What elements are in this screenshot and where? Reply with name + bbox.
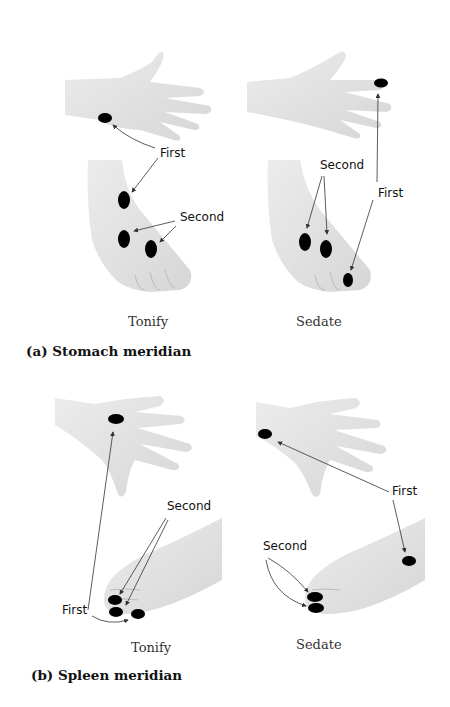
- caption-sedate: Sedate: [296, 637, 342, 652]
- label-second: Second: [167, 499, 211, 513]
- spleen-sedate-foot-point-3: [308, 603, 324, 613]
- label-second: Second: [320, 158, 364, 172]
- stomach-sedate-foot-point-2: [320, 240, 332, 258]
- caption-sedate: Sedate: [296, 314, 342, 329]
- spleen-tonify-hand: [55, 396, 192, 497]
- stomach-tonify-foot-point-3: [145, 240, 157, 258]
- stomach-tonify-hand: [65, 52, 211, 141]
- spleen-sedate-foot: [305, 518, 425, 614]
- label-first: First: [62, 603, 87, 617]
- spleen-sedate-foot-point-2: [307, 592, 323, 602]
- stomach-tonify-foot-point-1: [118, 191, 130, 209]
- label-first: First: [160, 146, 185, 160]
- spleen-tonify-foot-point-3: [131, 609, 145, 619]
- stomach-sedate-foot-point-1: [299, 233, 311, 251]
- spleen-sedate-foot-point-1: [402, 556, 416, 566]
- spleen-tonify-foot-point-2: [109, 607, 123, 617]
- label-first: First: [378, 186, 403, 200]
- section-title-spleen: (b) Spleen meridian: [31, 667, 182, 683]
- spleen-sedate-hand-point: [258, 429, 272, 439]
- spleen-tonify-foot-point-1: [108, 595, 122, 605]
- section-title-stomach: (a) Stomach meridian: [26, 343, 191, 359]
- caption-tonify: Tonify: [131, 640, 171, 655]
- spleen-tonify-hand-point: [108, 414, 124, 424]
- stomach-tonify-hand-point: [98, 113, 112, 123]
- stomach-sedate-hand: [247, 52, 391, 139]
- stomach-sedate-foot-point-3: [343, 273, 353, 287]
- label-second: Second: [180, 210, 224, 224]
- stomach-sedate-foot: [268, 160, 371, 292]
- stomach-tonify-foot-point-2: [118, 230, 130, 248]
- label-second: Second: [263, 539, 307, 553]
- label-first: First: [392, 484, 417, 498]
- stomach-sedate-hand-point: [374, 79, 388, 88]
- caption-tonify: Tonify: [128, 314, 168, 329]
